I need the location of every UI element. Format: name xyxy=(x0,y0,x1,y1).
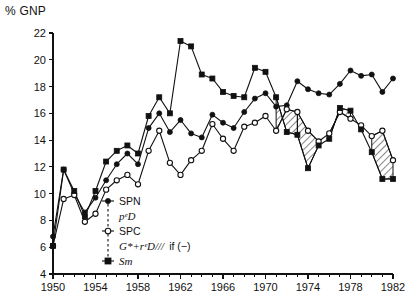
data-point-SPN xyxy=(51,234,56,239)
hatched-region xyxy=(297,112,318,168)
x-tick-label: 1978 xyxy=(338,281,362,293)
legend-label-peD: pᵉD xyxy=(118,210,135,222)
data-point-SPN xyxy=(210,112,215,117)
data-point-ST xyxy=(391,176,396,181)
legend-label-SPC: SPC xyxy=(119,225,141,237)
data-point-ST xyxy=(221,89,226,94)
data-point-ST xyxy=(167,111,172,116)
y-tick-label: 8 xyxy=(40,214,46,226)
data-point-ST xyxy=(51,243,56,248)
data-point-ST xyxy=(252,65,257,70)
data-point-SPN xyxy=(295,79,300,84)
x-tick-label: 1958 xyxy=(126,281,150,293)
series-line-SPN xyxy=(53,70,393,236)
data-point-SPC xyxy=(178,172,183,177)
data-point-SPN xyxy=(167,130,172,135)
series-line-ST xyxy=(53,41,393,246)
data-point-SPC xyxy=(135,182,140,187)
x-tick-label: 1982 xyxy=(381,281,405,293)
data-point-SPC xyxy=(189,158,194,163)
data-point-ST xyxy=(210,76,215,81)
data-point-ST xyxy=(327,136,332,141)
data-point-SPC xyxy=(231,148,236,153)
data-point-ST xyxy=(359,127,364,132)
chart-axes: 4681012141618202219501954195819621966197… xyxy=(34,27,405,293)
data-point-ST xyxy=(295,132,300,137)
data-point-SPN xyxy=(263,91,268,96)
data-point-SPC xyxy=(125,172,130,177)
data-point-ST xyxy=(125,143,130,148)
data-point-SPN xyxy=(380,89,385,94)
data-point-ST xyxy=(231,93,236,98)
data-point-ST xyxy=(380,176,385,181)
data-point-SPN xyxy=(369,72,374,77)
y-tick-label: 4 xyxy=(40,268,46,280)
data-point-SPC xyxy=(252,120,257,125)
data-point-SPC xyxy=(295,109,300,114)
data-point-ST xyxy=(284,130,289,135)
data-point-ST xyxy=(263,69,268,74)
data-point-SPN xyxy=(178,118,183,123)
x-tick-label: 1954 xyxy=(83,281,107,293)
data-point-SPN xyxy=(327,92,332,97)
y-tick-label: 20 xyxy=(34,54,46,66)
data-point-SPC xyxy=(93,211,98,216)
data-point-SPC xyxy=(220,136,225,141)
x-tick-label: 1962 xyxy=(168,281,192,293)
data-point-SPC xyxy=(284,107,289,112)
data-point-ST xyxy=(337,105,342,110)
x-tick-label: 1950 xyxy=(41,281,65,293)
data-point-SPN xyxy=(199,135,204,140)
y-tick-label: 18 xyxy=(34,81,46,93)
data-point-SPC xyxy=(263,113,268,118)
data-point-SPN xyxy=(114,162,119,167)
data-series-markers xyxy=(50,39,395,249)
data-series-lines xyxy=(53,41,393,246)
hatched-region xyxy=(372,131,393,179)
data-point-ST xyxy=(114,148,119,153)
data-point-SPC xyxy=(274,128,279,133)
data-point-SPC xyxy=(61,196,66,201)
axis-lines xyxy=(53,33,393,274)
y-tick-label: 6 xyxy=(40,241,46,253)
legend-suffix-hatch: if (−) xyxy=(169,240,190,252)
data-point-SPN xyxy=(242,109,247,114)
hatched-regions xyxy=(276,97,393,179)
data-point-ST xyxy=(82,214,87,219)
data-point-SPN xyxy=(136,162,141,167)
data-point-SPN xyxy=(359,73,364,78)
data-point-SPN xyxy=(316,91,321,96)
data-point-ST xyxy=(242,95,247,100)
data-point-SPN xyxy=(231,126,236,131)
data-point-ST xyxy=(146,114,151,119)
data-point-SPC xyxy=(369,133,374,138)
data-point-SPC xyxy=(242,124,247,129)
x-tick-label: 1970 xyxy=(253,281,277,293)
legend-label-ST: Sт xyxy=(119,255,133,267)
data-point-SPC xyxy=(380,128,385,133)
data-point-ST xyxy=(316,143,321,148)
data-point-ST xyxy=(189,44,194,49)
line-chart-plot: 4681012141618202219501954195819621966197… xyxy=(0,0,410,306)
data-point-SPN xyxy=(274,104,279,109)
data-point-SPN xyxy=(157,111,162,116)
data-point-ST xyxy=(178,39,183,44)
data-point-SPC xyxy=(199,148,204,153)
data-point-ST xyxy=(306,166,311,171)
data-point-ST xyxy=(369,150,374,155)
data-point-SPN xyxy=(221,120,226,125)
legend-marker-ST xyxy=(105,258,111,264)
data-point-SPC xyxy=(82,219,87,224)
data-point-ST xyxy=(72,188,77,193)
data-point-SPN xyxy=(252,96,257,101)
y-tick-label: 12 xyxy=(34,161,46,173)
data-point-ST xyxy=(348,108,353,113)
data-point-ST xyxy=(199,72,204,77)
data-point-ST xyxy=(136,151,141,156)
data-point-SPN xyxy=(391,76,396,81)
data-point-ST xyxy=(274,95,279,100)
legend-marker-SPC xyxy=(105,228,111,234)
data-point-SPN xyxy=(125,151,130,156)
data-point-SPN xyxy=(306,87,311,92)
chart-legend: SPNpᵉDSPCG*+rᵉD///if (−)Sт xyxy=(102,195,190,267)
